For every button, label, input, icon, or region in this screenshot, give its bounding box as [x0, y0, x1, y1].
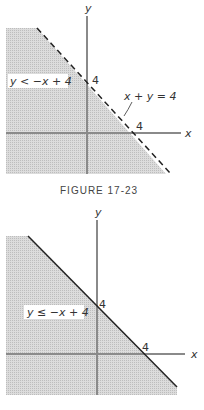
y-intercept-label: 4 — [99, 298, 106, 311]
x-axis-label: x — [190, 348, 198, 361]
figure-caption: FIGURE 17-23 — [60, 185, 138, 196]
figure-2: y ≤ −x + 4 4 4 x y — [6, 206, 198, 395]
x-intercept-label: 4 — [136, 120, 143, 133]
x-intercept-label: 4 — [142, 341, 149, 354]
x-axis-label: x — [184, 127, 192, 140]
y-axis-label: y — [94, 206, 102, 219]
region-label: y < −x + 4 — [9, 75, 72, 88]
y-axis-label: y — [84, 2, 92, 15]
line-label: x + y = 4 — [123, 90, 176, 103]
figure-17-23: y < −x + 4 4 x + y = 4 4 x y FIGURE 17-2… — [6, 2, 192, 196]
pointer-arrow — [124, 102, 132, 116]
region-label: y ≤ −x + 4 — [26, 306, 89, 319]
y-intercept-label: 4 — [92, 74, 99, 87]
